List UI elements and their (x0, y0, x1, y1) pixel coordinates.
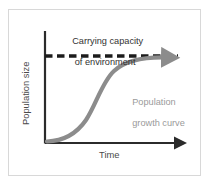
growth-curve-label-line2: growth curve (132, 118, 185, 128)
carrying-capacity-label: Carrying capacity of environment (62, 26, 143, 88)
x-axis-label: Time (99, 150, 119, 161)
growth-curve-label: Population growth curve (122, 87, 185, 138)
carrying-capacity-label-line2: of environment (62, 57, 143, 67)
y-axis-label: Population size (21, 51, 32, 135)
population-growth-figure: Carrying capacity of environment Populat… (0, 0, 210, 186)
growth-curve-label-line1: Population (132, 97, 175, 107)
carrying-capacity-label-line1: Carrying capacity (72, 36, 143, 46)
